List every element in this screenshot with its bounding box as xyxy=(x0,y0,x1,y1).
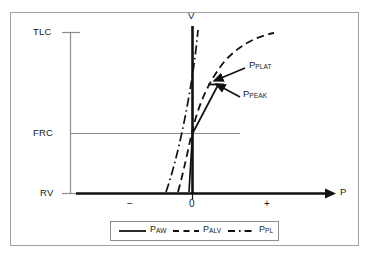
y-axis-title: V xyxy=(188,10,195,21)
legend-label-p-aw: PAW xyxy=(150,224,167,234)
legend-label-p-alv: PALV xyxy=(203,224,221,234)
x-axis-title: P xyxy=(340,186,347,197)
annotation-ppeak-sub: PEAK xyxy=(249,92,267,99)
y-tick-label-rv: RV xyxy=(40,187,53,198)
x-tick-label-negative: − xyxy=(127,198,133,209)
figure-container: TLC FRC RV V P − 0 + PPLAT PPEAK PAW PAL… xyxy=(0,0,372,257)
annotation-pplat-sub: PLAT xyxy=(255,63,271,70)
legend-label-p-aw-sub: AW xyxy=(156,227,167,234)
annotation-ppeak: PPEAK xyxy=(243,88,267,99)
x-tick-label-zero: 0 xyxy=(189,198,195,209)
legend-label-p-pl: PPL xyxy=(259,224,273,234)
x-tick-label-positive: + xyxy=(264,198,270,209)
annotation-pplat: PPLAT xyxy=(249,59,272,70)
figure-border xyxy=(11,13,359,246)
legend-label-p-alv-sub: ALV xyxy=(209,227,221,234)
y-tick-label-frc: FRC xyxy=(33,127,53,138)
legend-label-p-pl-sub: PL xyxy=(265,227,273,234)
pv-diagram-svg xyxy=(0,0,372,257)
y-tick-label-tlc: TLC xyxy=(33,26,52,37)
